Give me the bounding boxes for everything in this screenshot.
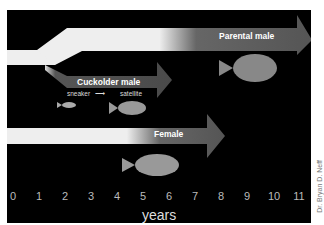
sneaker-fish-icon	[57, 102, 76, 108]
tick-3: 3	[83, 190, 99, 202]
tick-2: 2	[57, 190, 73, 202]
tick-5: 5	[135, 190, 151, 202]
parental-male-label: Parental male	[219, 31, 274, 41]
satellite-fish-icon	[109, 101, 146, 115]
tick-1: 1	[31, 190, 47, 202]
arrow-right-icon: ⟶	[95, 90, 105, 98]
axis-title: years	[142, 207, 176, 223]
satellite-label: satellite	[120, 90, 142, 97]
tick-9: 9	[239, 190, 255, 202]
female-fish-icon	[122, 154, 179, 176]
tick-0: 0	[5, 190, 21, 202]
tick-8: 8	[213, 190, 229, 202]
tick-10: 10	[266, 190, 282, 202]
sneaker-label: sneaker	[67, 90, 90, 97]
tick-7: 7	[187, 190, 203, 202]
tick-6: 6	[161, 190, 177, 202]
female-arrow	[7, 114, 225, 158]
cuckolder-male-label: Cuckolder male	[77, 77, 140, 87]
tick-4: 4	[109, 190, 125, 202]
parental-fish-icon	[219, 54, 277, 82]
photo-credit: Dr. Bryan D. Neff	[316, 160, 323, 213]
tick-11: 11	[291, 190, 307, 202]
female-label: Female	[154, 129, 183, 139]
